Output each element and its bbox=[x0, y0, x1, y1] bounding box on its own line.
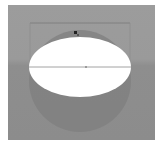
drawing-canvas[interactable] bbox=[8, 5, 155, 140]
center-handle[interactable] bbox=[85, 66, 87, 68]
canvas-graphics bbox=[8, 5, 155, 140]
